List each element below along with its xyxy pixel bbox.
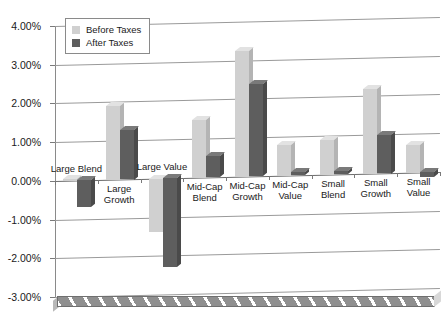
bar-front-face	[120, 130, 134, 180]
bar-before-taxes	[406, 145, 420, 173]
legend-label-before-taxes: Before Taxes	[86, 24, 141, 35]
bar-front-face	[320, 140, 334, 175]
bar-after-taxes	[334, 171, 348, 174]
y-axis-tick-label: -3.00%	[8, 292, 41, 302]
x-axis-category-label: Large Blend	[48, 164, 105, 175]
y-axis-tick-label: -1.00%	[8, 215, 41, 225]
bar-after-taxes	[120, 130, 134, 180]
legend-item-before-taxes: Before Taxes	[72, 23, 141, 36]
plot-area	[55, 26, 440, 297]
y-axis-tick-mark	[50, 297, 55, 298]
x-axis-tick-mark	[226, 177, 227, 181]
bar-side-face	[263, 81, 267, 176]
bar-front-face	[291, 172, 305, 175]
y-axis-tick-mark	[50, 142, 55, 143]
legend-swatch-after-taxes	[72, 39, 80, 47]
x-axis-tick-mark	[397, 173, 398, 177]
bar-before-taxes	[192, 120, 206, 177]
x-axis-tick-mark	[312, 175, 313, 179]
x-axis-category-label: Large Growth	[91, 184, 148, 205]
bar-after-taxes	[291, 172, 305, 175]
bar-side-face	[305, 169, 309, 175]
x-axis-tick-mark	[269, 176, 270, 180]
bar-front-face	[192, 120, 206, 177]
bar-before-taxes	[106, 106, 120, 180]
y-axis-tick-mark	[50, 258, 55, 259]
bar-before-taxes	[277, 145, 291, 176]
bar-series-group	[55, 26, 440, 297]
bar-after-taxes	[206, 156, 220, 177]
bar-front-face	[277, 145, 291, 176]
y-axis-tick-label: 4.00%	[11, 21, 41, 31]
y-axis-tick-mark	[50, 65, 55, 66]
bar-side-face	[348, 168, 352, 174]
y-axis-tick-label: -2.00%	[8, 253, 41, 263]
bar-front-face	[334, 171, 348, 174]
bar-side-face	[391, 131, 395, 173]
x-axis-category-label: Small Value	[390, 177, 445, 198]
bar-front-face	[377, 135, 391, 174]
bar-side-face	[434, 169, 438, 177]
y-axis-tick-mark	[50, 220, 55, 221]
bar-after-taxes	[249, 84, 263, 176]
x-axis-tick-mark	[183, 178, 184, 182]
bar-front-face	[163, 178, 177, 267]
legend-swatch-before-taxes	[72, 26, 80, 34]
legend-label-after-taxes: After Taxes	[86, 37, 133, 48]
x-axis-tick-mark	[55, 181, 56, 185]
bar-front-face	[249, 84, 263, 176]
bar-before-taxes	[320, 140, 334, 175]
x-axis-category-label: Large Value	[134, 162, 191, 173]
y-axis-tick-label: 3.00%	[11, 60, 41, 70]
floor-slab-face	[57, 296, 435, 307]
bar-before-taxes	[235, 51, 249, 177]
bar-front-face	[206, 156, 220, 177]
bar-front-face	[235, 51, 249, 177]
bar-front-face	[149, 179, 163, 232]
bar-after-taxes	[377, 135, 391, 174]
y-axis-tick-mark	[50, 26, 55, 27]
bar-front-face	[363, 89, 377, 173]
bar-front-face	[77, 180, 91, 207]
y-axis-tick-mark	[50, 103, 55, 104]
y-axis-tick-label: 1.00%	[11, 137, 41, 147]
x-axis-tick-mark	[440, 172, 441, 176]
bar-after-taxes	[77, 180, 91, 207]
x-axis-tick-mark	[141, 179, 142, 183]
x-axis-tick-mark	[354, 174, 355, 178]
y-axis-tick-label: 0.00%	[11, 176, 41, 186]
bar-before-taxes	[149, 179, 163, 232]
chart-legend: Before Taxes After Taxes	[65, 18, 150, 54]
bar-after-taxes	[163, 178, 177, 267]
bar-front-face	[106, 106, 120, 180]
x-axis-tick-mark	[98, 180, 99, 184]
y-axis-labels: 4.00%3.00%2.00%1.00%0.00%-1.00%-2.00%-3.…	[0, 0, 50, 317]
legend-item-after-taxes: After Taxes	[72, 36, 141, 49]
bar-before-taxes	[363, 89, 377, 173]
floor-slab	[57, 296, 435, 310]
y-axis-tick-label: 2.00%	[11, 98, 41, 108]
bar-front-face	[406, 145, 420, 173]
bar-side-face	[220, 153, 224, 178]
